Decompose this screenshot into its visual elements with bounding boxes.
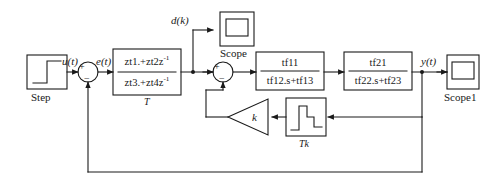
scope-top-outline [220,12,254,46]
sum2-minus-sign: − [219,74,225,84]
scope-top-label: Scope [220,48,247,59]
scope1-screen [452,62,474,79]
signal-label-u: u(t) [62,56,78,67]
discrete-tf-denominator: zt3.+zt4z-1 [113,76,181,88]
signal-label-y: y(t) [421,56,436,67]
sum1-plus-sign: + [79,62,85,72]
scope-top-screen [226,19,248,36]
step-block-label: Step [31,92,51,103]
block-diagram-canvas: Step u(t) + − e(t) zt1.+zt2z-1 zt3.+zt4z… [0,0,482,190]
discrete-tf-numerator: zt1.+zt2z-1 [113,55,181,67]
discrete-tf-numerator-exponent: -1 [163,54,169,62]
diagram-vector-layer [0,0,482,190]
discrete-tf-numerator-text: zt1.+zt2z [125,56,164,67]
sum1-minus-sign: − [84,74,90,84]
gain-block-label: k [252,112,257,123]
tf1-denominator: tf12.s+tf13 [256,75,324,86]
pulse-staircase-icon [291,106,322,130]
gain-triangle-outline [228,99,268,135]
tf2-numerator: tf21 [344,57,412,68]
discrete-tf-denominator-exponent: -1 [163,75,169,83]
signal-label-e: e(t) [96,56,111,67]
discrete-tf-denominator-text: zt3.+zt4z [125,77,164,88]
discrete-tf-sample-time-label: T [144,97,150,107]
tf1-numerator: tf11 [256,57,324,68]
pulse-block-label: Tk [299,139,309,149]
signal-label-dk: d(k) [171,15,189,26]
sum2-plus-sign: + [214,62,220,72]
tf2-denominator: tf22.s+tf23 [344,75,412,86]
step-waveform-icon [33,61,61,83]
scope1-label: Scope1 [444,92,476,103]
